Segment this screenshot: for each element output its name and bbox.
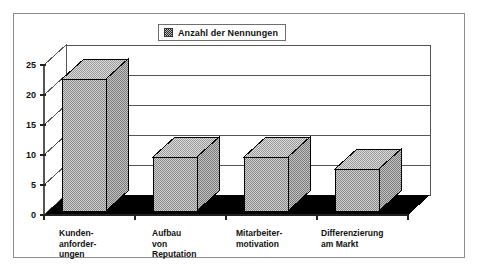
y-tick-label-25: 25 <box>14 60 36 70</box>
series-swatch-icon <box>164 28 173 37</box>
legend-series-label: Anzahl der Nennungen <box>178 28 278 38</box>
y-tick-label-10: 10 <box>14 150 36 160</box>
x-category-label-aufbau-von-reputation: Aufbau von Reputation <box>152 228 196 260</box>
bar-aufbau-von-reputation <box>153 137 219 211</box>
x-category-label-differenzierung-am-markt: Differenzierung am Markt <box>321 228 383 249</box>
bar-mitarbeitermotivation <box>244 137 310 211</box>
bar-kunden-anforderungen <box>62 59 128 211</box>
x-category-label-mitarbeitermotivation: Mitarbeiter- motivation <box>236 228 282 249</box>
x-category-label-kunden-anforderungen: Kunden- anforder- ungen <box>59 228 96 260</box>
y-tick-label-20: 20 <box>14 90 36 100</box>
x-axis-baseline <box>44 215 408 220</box>
y-tick-label-0: 0 <box>14 210 36 220</box>
chart-legend: Anzahl der Nennungen <box>158 24 286 41</box>
y-tick-label-5: 5 <box>14 180 36 190</box>
y-tick-label-15: 15 <box>14 120 36 130</box>
chart-page: 25 20 15 10 5 0 Kunden- anforder- ungen … <box>0 0 479 273</box>
